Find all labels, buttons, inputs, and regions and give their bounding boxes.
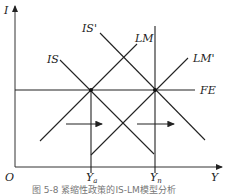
lm-shift-label: LM' [192, 52, 215, 65]
equilibrium-point-n [153, 88, 157, 92]
figure-caption: 图 5-8 紧缩性政策的IS-LM模型分析 [32, 184, 176, 195]
y-axis-label: I [3, 4, 9, 17]
is-label: IS [46, 53, 59, 66]
x-axis-label: Y [211, 171, 220, 184]
is-lm-fe-diagram: I Y O IS IS' LM LM' FE Ya Yn 图 5-8 紧缩性政策… [0, 0, 226, 195]
ya-label: Ya [86, 171, 97, 185]
yn-label: Yn [150, 171, 162, 185]
lm-label: LM [134, 32, 154, 45]
equilibrium-point-a [89, 88, 93, 92]
origin-label: O [5, 171, 14, 184]
fe-label: FE [199, 84, 216, 97]
is-shift-label: IS' [81, 22, 97, 35]
